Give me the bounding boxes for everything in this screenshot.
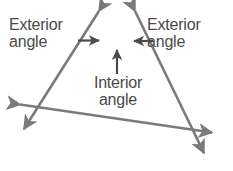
label-exterior-angle-right: Exterior angle [147,16,201,50]
label-exterior-right-line1: Exterior [147,16,201,33]
label-exterior-left-line1: Exterior [9,16,63,33]
label-interior-line1: Interior [68,74,168,91]
label-exterior-angle-left: Exterior angle [9,16,63,50]
label-exterior-left-line2: angle [9,33,63,50]
label-interior-angle: Interior angle [68,74,168,108]
label-interior-line2: angle [68,91,168,108]
label-exterior-right-line2: angle [147,33,201,50]
geometry-diagram: Exterior angle Exterior angle Interior a… [0,0,233,171]
